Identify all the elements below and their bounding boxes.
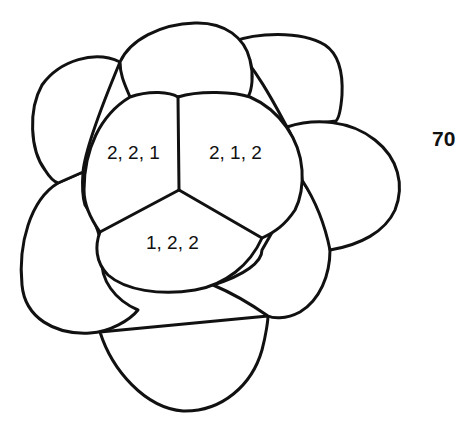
petal-bottom	[100, 316, 268, 411]
figure-number: 70	[432, 127, 455, 151]
cell-label-bottom: 1, 2, 2	[146, 232, 199, 254]
cell-label-upper-right: 2, 1, 2	[209, 142, 262, 164]
cell-cluster-diagram	[0, 0, 473, 431]
divider-vertical	[178, 97, 179, 190]
petal-top	[120, 23, 252, 97]
cell-label-upper-left: 2, 2, 1	[107, 142, 160, 164]
